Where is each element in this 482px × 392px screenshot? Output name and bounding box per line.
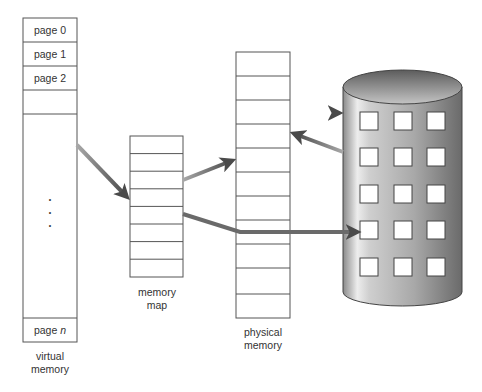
page-0-label: page 0 <box>23 24 77 36</box>
memory-map-table <box>130 136 183 277</box>
memory-map-caption-line1: memory <box>120 286 194 299</box>
virtual-memory-column <box>23 18 77 342</box>
page-n-prefix: page <box>34 324 60 336</box>
arrow-map-to-physical <box>183 161 231 180</box>
page-2-label: page 2 <box>23 72 77 84</box>
arrow-virtual-to-map <box>77 145 126 196</box>
virtual-memory-caption-line1: virtual <box>13 350 87 363</box>
page-n-variable: n <box>60 324 66 336</box>
physical-memory-column <box>236 52 290 318</box>
physical-memory-caption-line2: memory <box>226 339 300 352</box>
page-n-label: page n <box>23 324 77 336</box>
ellipsis-dot-3: • <box>23 222 77 229</box>
memory-map-caption: memory map <box>120 286 194 312</box>
page-1-label: page 1 <box>23 48 77 60</box>
physical-memory-caption-line1: physical <box>226 326 300 339</box>
ellipsis-dot-2: • <box>23 209 77 216</box>
virtual-memory-caption-line2: memory <box>13 363 87 376</box>
virtual-memory-caption: virtual memory <box>13 350 87 376</box>
arrow-disk-to-physical <box>295 134 343 152</box>
physical-memory-caption: physical memory <box>226 326 300 352</box>
memory-map-caption-line2: map <box>120 299 194 312</box>
ellipsis-dot-1: • <box>23 196 77 203</box>
